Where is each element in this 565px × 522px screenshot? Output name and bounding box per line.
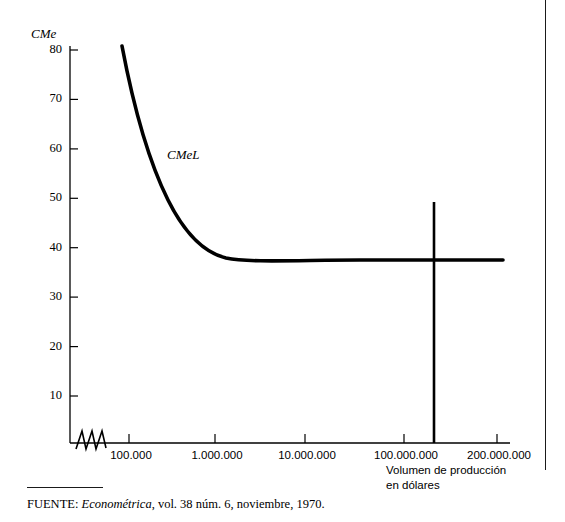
source-divider bbox=[27, 487, 103, 488]
y-tick-label-60: 60 bbox=[34, 141, 62, 156]
source-block: FUENTE: Econométrica, vol. 38 núm. 6, no… bbox=[27, 487, 537, 512]
y-axis-title: CMe bbox=[31, 26, 56, 42]
plot-canvas bbox=[0, 0, 545, 470]
x-tick-label-200000000: 200.000.000 bbox=[467, 449, 531, 461]
figure-page: CMe CMeL 80 70 60 50 40 30 20 10 100.000… bbox=[0, 0, 565, 522]
x-tick-label-1000000: 1.000.000 bbox=[191, 449, 242, 461]
x-tick-label-100000000: 100.000.000 bbox=[374, 449, 438, 461]
cmel-curve-label: CMeL bbox=[167, 147, 200, 163]
y-tick-label-70: 70 bbox=[34, 91, 62, 106]
x-tick-label-100000: 100.000 bbox=[110, 449, 152, 461]
source-citation-rest: , vol. 38 núm. 6, noviembre, 1970. bbox=[152, 497, 325, 511]
page-edge-rule bbox=[545, 0, 546, 470]
y-tick-label-80: 80 bbox=[34, 42, 62, 57]
y-axis-ticks bbox=[70, 50, 78, 396]
x-axis-ticks bbox=[129, 434, 497, 443]
y-tick-label-50: 50 bbox=[34, 190, 62, 205]
source-note: FUENTE: Econométrica, vol. 38 núm. 6, no… bbox=[27, 497, 537, 512]
source-journal-title: Econométrica bbox=[82, 497, 152, 511]
y-tick-label-40: 40 bbox=[34, 240, 62, 255]
source-prefix: FUENTE: bbox=[27, 497, 82, 511]
x-axis-caption-line-1: Volumen de producción bbox=[386, 463, 506, 478]
x-tick-label-10000000: 10.000.000 bbox=[278, 449, 336, 461]
cost-curve-figure: CMe CMeL 80 70 60 50 40 30 20 10 100.000… bbox=[0, 0, 545, 470]
y-tick-label-30: 30 bbox=[34, 289, 62, 304]
y-tick-label-10: 10 bbox=[34, 388, 62, 403]
axis-break-zigzag-icon bbox=[76, 431, 106, 449]
y-tick-label-20: 20 bbox=[34, 339, 62, 354]
